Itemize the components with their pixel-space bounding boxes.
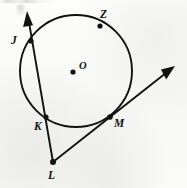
label-O: O (79, 61, 87, 72)
label-K: K (34, 121, 42, 133)
label-M: M (114, 118, 124, 130)
arrowhead-upper-left-icon (23, 11, 33, 27)
secant-ray-LJ (30, 26, 53, 162)
point-dot-K (43, 114, 48, 119)
label-Z: Z (100, 9, 107, 21)
point-dot-J (28, 38, 33, 43)
point-dot-M (107, 114, 113, 120)
geometry-figure: J Z K M L O (0, 0, 187, 188)
arrowhead-right-icon (161, 66, 175, 80)
diagram-ink-layer (0, 0, 187, 188)
point-dot-O (70, 69, 75, 74)
point-dot-Z (97, 23, 102, 28)
point-dot-L (50, 159, 56, 165)
label-J: J (11, 35, 17, 47)
label-L: L (48, 170, 55, 182)
